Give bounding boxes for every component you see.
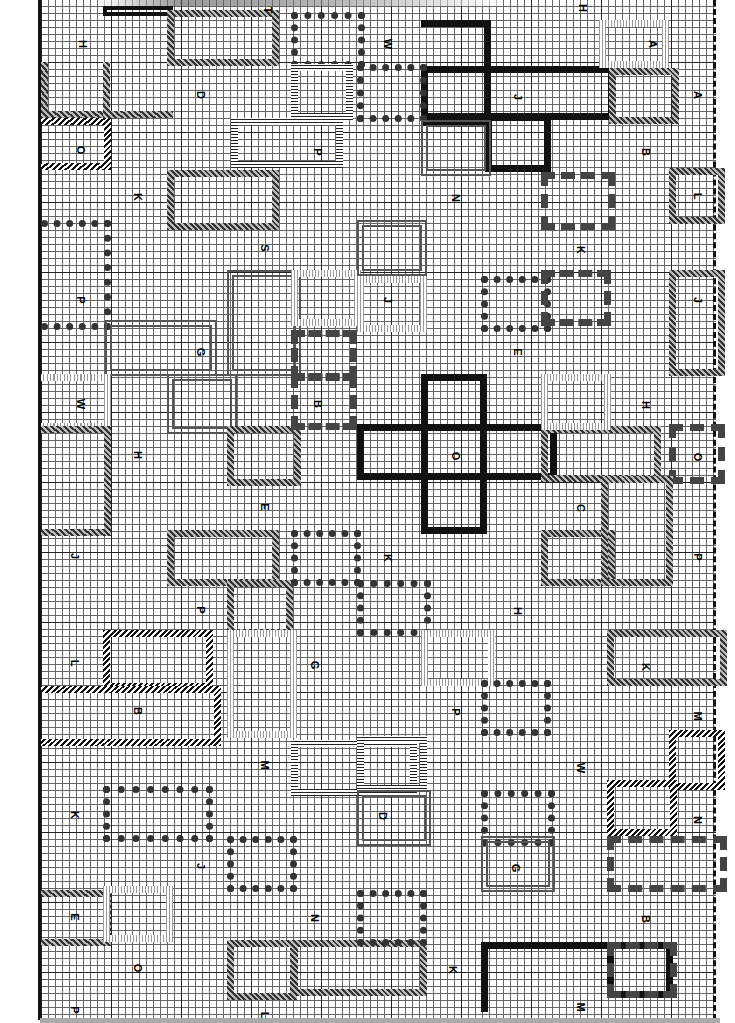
block-label: M (259, 759, 271, 771)
block-label: G (309, 659, 321, 671)
block-outline-plus (357, 736, 427, 792)
block-label: N (309, 912, 321, 924)
block-outline-tick (103, 886, 173, 942)
block-outline-x (541, 270, 611, 326)
block-label: W (575, 762, 587, 774)
block-label: H (77, 38, 89, 50)
block-label: K (640, 661, 652, 673)
block-label: G (195, 346, 207, 358)
block-outline-tri (609, 68, 679, 124)
block-outline-tri (227, 580, 293, 636)
block-label: B (312, 398, 324, 410)
block-outline-tri (541, 426, 661, 482)
block-label: C (575, 502, 587, 514)
block-outline-tri (669, 270, 725, 376)
block-outline-circle (167, 374, 237, 434)
block-label: H (132, 449, 144, 461)
block-outline-hatch (607, 780, 677, 836)
block-label: B (640, 913, 652, 925)
block-outline-dot (227, 836, 297, 892)
block-outline-tri (103, 62, 173, 118)
block-outline-tick (291, 270, 361, 326)
block-outline-x (607, 836, 727, 892)
block-outline-tri (167, 170, 279, 230)
block-label: H (640, 399, 652, 411)
block-outline-dot (481, 680, 551, 736)
block-outline-plus (231, 118, 343, 168)
block-label: O (75, 144, 87, 156)
block-outline-tri (41, 426, 111, 536)
block-outline-solid (485, 114, 551, 172)
block-label: O (692, 451, 704, 463)
block-label: W (382, 38, 394, 50)
block-outline-tick (541, 374, 611, 430)
scan-shadow-top (100, 0, 500, 6)
block-outline-tri (607, 630, 727, 686)
block-label: P (312, 146, 324, 158)
block-outline-circle (357, 790, 431, 846)
block-outline-dot (357, 64, 427, 122)
block-label: M (692, 710, 704, 722)
block-label: O (450, 450, 462, 462)
block-label: L (692, 190, 704, 202)
block-outline-plus (291, 64, 353, 120)
block-label: P (195, 604, 207, 616)
block-label: O (132, 962, 144, 974)
block-label: B (132, 705, 144, 717)
block-label: N (692, 814, 704, 826)
block-label: J (382, 294, 394, 306)
block-outline-x (541, 172, 615, 230)
block-label: K (575, 244, 587, 256)
block-label: H (577, 2, 589, 14)
block-label: P (450, 706, 462, 718)
block-label: K (382, 552, 394, 564)
block-label: K (447, 964, 459, 976)
block-label: A (647, 38, 659, 50)
block-outline-tri (167, 530, 279, 586)
block-outline-dot (103, 786, 213, 842)
block-label: P (69, 1004, 81, 1016)
cross-stitch-grid: HTWHADJAOPBKNLSKPJJGEWBHHOOECJKPPHLGKBPM… (38, 0, 716, 1020)
block-outline-tri (167, 10, 279, 66)
block-label: W (75, 398, 87, 410)
block-label: D (195, 89, 207, 101)
block-outline-dot (41, 220, 111, 330)
block-outline-tri (291, 940, 427, 996)
block-label: E (69, 911, 81, 923)
scan-shadow-bottom (40, 1018, 720, 1023)
block-label: S (259, 242, 271, 254)
block-outline-tri (601, 476, 673, 586)
block-label: J (512, 91, 524, 103)
block-label: J (692, 294, 704, 306)
block-outline-dot (291, 12, 365, 68)
block-label: G (510, 862, 522, 874)
block-outline-dot (291, 530, 361, 586)
block-label: D (377, 810, 389, 822)
block-label: H (512, 605, 524, 617)
block-outline-hatch (669, 730, 725, 790)
block-label: E (512, 346, 524, 358)
block-outline-circle (421, 120, 491, 176)
block-outline-solid (481, 942, 621, 1012)
block-outline-hatch (103, 630, 213, 690)
block-label: L (69, 657, 81, 669)
block-outline-tri (227, 940, 297, 1000)
block-outline-hatch (41, 686, 221, 746)
block-outline-x (291, 330, 357, 380)
block-label: K (132, 191, 144, 203)
block-outline-circle (357, 220, 427, 276)
block-outline-tri (227, 426, 301, 486)
block-label: N (450, 192, 462, 204)
block-outline-solid (103, 6, 173, 16)
block-outline-dot (357, 580, 431, 636)
block-outline-x (607, 942, 677, 998)
block-label: P (692, 551, 704, 563)
block-outline-circle (227, 270, 301, 376)
block-outline-x (291, 374, 357, 430)
block-outline-tri (41, 62, 103, 118)
block-outline-dot (357, 890, 427, 946)
block-label: J (69, 550, 81, 562)
block-label: M (575, 1001, 587, 1013)
block-label: P (75, 294, 87, 306)
block-label: E (259, 501, 271, 513)
